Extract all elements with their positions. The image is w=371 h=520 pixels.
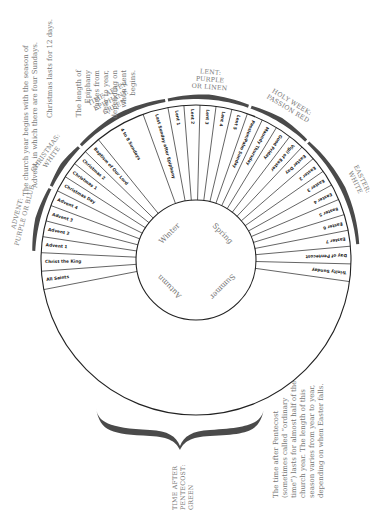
season-label-line: OR LINEN — [191, 82, 228, 92]
brace-advent — [32, 188, 54, 251]
segment-divider — [98, 140, 158, 214]
pentecost-caption-line-1: The time after Pentecost — [272, 410, 280, 498]
pentecost-label-line-2: PENTECOST: — [179, 464, 186, 510]
segment-label: Lent 5 — [232, 115, 241, 131]
advent-caption: The church year begins with the season o… — [22, 42, 39, 196]
segment-label: Easter 6 — [323, 221, 344, 231]
segment-label: 4 to 8 Sundays — [120, 127, 142, 161]
segment-label: Easter 2 — [298, 166, 317, 182]
christmas-caption: Christmas lasts for 12 days. — [46, 19, 54, 118]
segment-label: Day of Pentecost — [306, 253, 347, 259]
segment-divider — [222, 120, 263, 206]
segment-divider — [75, 164, 149, 223]
segment-label: Easter 7 — [325, 237, 345, 245]
natural-season-winter: Winter — [157, 221, 182, 246]
segment-divider — [65, 177, 145, 228]
segment-label: Easter 5 — [318, 206, 338, 218]
segment-label: Advent 4 — [57, 197, 79, 210]
christmas-caption-line: Christmas lasts for 12 days. — [46, 19, 54, 118]
segment-label: Trinity Sunday — [311, 267, 346, 275]
pentecost-label-line-1: TIME AFTER — [171, 466, 178, 510]
segment-label: Advent 2 — [48, 227, 70, 236]
pentecost-caption: The time after Pentecost (sometimes call… — [272, 380, 325, 498]
pentecost-caption-line-5: season varies from year to year, — [308, 385, 316, 498]
sunday-segments: All SaintsChrist the KingAdvent 1Advent … — [41, 105, 351, 290]
segment-label: Advent 1 — [46, 242, 68, 249]
season-label-easter: EASTER:WHITE — [346, 164, 371, 198]
season-label-lent: LENT:PURPLEOR LINEN — [191, 67, 229, 92]
pentecost-caption-line-6: depending on when Easter falls. — [317, 384, 325, 498]
segment-divider — [216, 114, 247, 204]
segment-label: All Saints — [46, 274, 70, 282]
pentecost-caption-line-3: time”) lasts for almost half of the — [290, 380, 298, 498]
pentecost-caption-line-2: (sometimes called “ordinary — [281, 398, 289, 498]
pentecost-season-label: TIME AFTER PENTECOST: GREEN — [171, 464, 194, 510]
segment-label: Last Sunday after Epiphany — [154, 114, 176, 180]
segment-label: Lent 1 — [174, 110, 181, 126]
segment-label: Lent 4 — [218, 111, 226, 127]
natural-season-summer: Summer — [208, 272, 237, 301]
epiphany-caption-line-1: The length of — [75, 69, 83, 118]
outer-circle — [41, 105, 351, 415]
segment-label: Baptism of Our Lord — [93, 146, 130, 185]
pentecost-label-line-3: GREEN — [187, 484, 194, 510]
segment-label: Lent 3 — [204, 109, 210, 125]
pentecost-caption-line-4: church year. The length of this — [299, 389, 307, 498]
segment-label: Easter 3 — [306, 178, 326, 193]
epiphany-caption-line-3: varies from — [93, 70, 101, 112]
church-year-diagram: All SaintsChrist the KingAdvent 1Advent … — [0, 0, 371, 520]
segment-label: Christ the King — [45, 259, 81, 264]
epiphany-caption-line-2: Epiphany — [84, 70, 92, 104]
segment-divider — [41, 253, 136, 257]
inner-circle — [136, 200, 256, 320]
season-label-advent: ADVENT:PURPLE OR BLUE — [6, 182, 36, 246]
brace-lent — [168, 92, 249, 111]
segment-label: Lent 2 — [190, 109, 195, 124]
segment-divider — [256, 262, 351, 264]
segment-divider — [41, 264, 136, 271]
natural-season-autumn: Autumn — [155, 273, 183, 301]
church-year-wheel: All SaintsChrist the KingAdvent 1Advent … — [41, 105, 351, 415]
epiphany-caption-line-4: year to year, — [102, 70, 110, 115]
advent-caption-line-2: Advent, in which there are four Sundays. — [31, 42, 39, 189]
natural-seasons: WinterSpringSummerAutumn — [155, 221, 237, 302]
natural-season-spring: Spring — [210, 221, 235, 246]
segment-label: Advent 3 — [51, 212, 73, 223]
epiphany-caption-line-7: begins. — [129, 70, 137, 96]
epiphany-caption-line-5: depending on — [111, 70, 119, 119]
advent-caption-line-1: The church year begins with the season o… — [22, 44, 30, 196]
segment-divider — [198, 105, 200, 200]
epiphany-caption-line-6: when Lent — [120, 70, 128, 108]
